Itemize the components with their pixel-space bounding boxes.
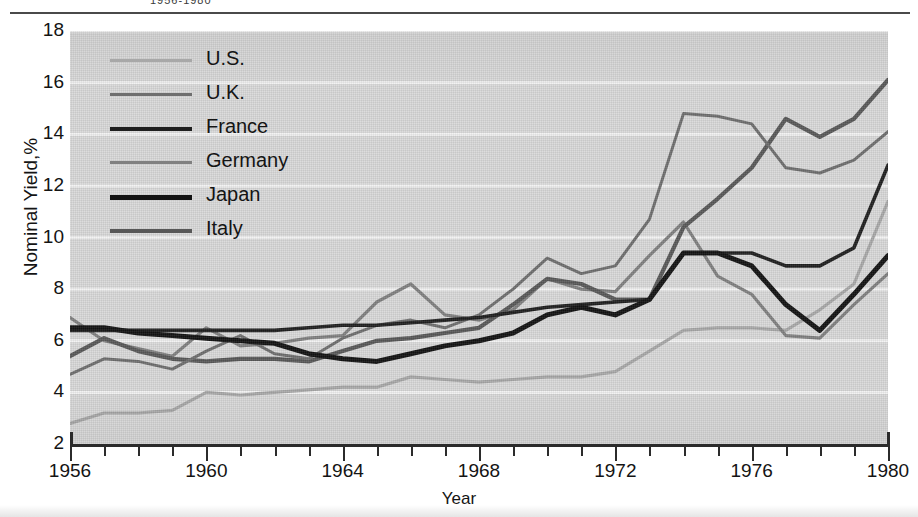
x-tick-label: 1980 — [853, 460, 918, 482]
legend-label: France — [206, 115, 268, 138]
x-tick-label: 1956 — [35, 460, 105, 482]
x-tick-minor — [172, 447, 174, 456]
x-tick-minor — [377, 447, 379, 456]
legend-swatch-icon — [110, 93, 192, 96]
x-tick-minor — [138, 447, 140, 456]
legend-label: Japan — [206, 183, 261, 206]
legend-label: Germany — [206, 149, 288, 172]
x-tick-major — [70, 447, 72, 461]
scan-edge-shadow — [0, 505, 918, 517]
x-tick-minor — [309, 447, 311, 456]
clipped-caption: 1956-1980 — [150, 0, 270, 6]
x-tick-label: 1964 — [308, 460, 378, 482]
legend-label: Italy — [206, 217, 243, 240]
x-tick-major — [479, 447, 481, 461]
x-tick-minor — [649, 447, 651, 456]
y-tick-label: 2 — [2, 432, 64, 454]
legend-swatch-icon — [110, 59, 192, 62]
x-axis-left-cap — [70, 432, 73, 445]
x-tick-label: 1976 — [717, 460, 787, 482]
x-tick-minor — [684, 447, 686, 456]
legend-swatch-icon — [110, 229, 192, 233]
x-tick-minor — [445, 447, 447, 456]
x-tick-minor — [581, 447, 583, 456]
y-tick-label: 18 — [2, 19, 64, 41]
legend-swatch-icon — [110, 161, 192, 164]
x-axis-right-cap — [887, 432, 890, 445]
x-tick-minor — [718, 447, 720, 456]
x-tick-major — [615, 447, 617, 461]
x-tick-minor — [547, 447, 549, 456]
top-rule — [10, 12, 910, 14]
y-axis-title: Nominal Yield,% — [20, 82, 42, 332]
x-tick-minor — [240, 447, 242, 456]
x-tick-label: 1960 — [171, 460, 241, 482]
y-tick-label: 4 — [2, 380, 64, 402]
x-tick-major — [752, 447, 754, 461]
plot-area — [70, 31, 888, 444]
series-line-japan — [70, 253, 888, 361]
x-tick-minor — [820, 447, 822, 456]
legend-label: U.S. — [206, 47, 245, 70]
legend-swatch-icon — [110, 127, 192, 131]
x-tick-label: 1968 — [444, 460, 514, 482]
series-lines — [70, 31, 888, 444]
y-tick-label: 6 — [2, 329, 64, 351]
x-tick-minor — [411, 447, 413, 456]
x-tick-minor — [786, 447, 788, 456]
x-tick-major — [343, 447, 345, 461]
x-tick-minor — [854, 447, 856, 456]
legend-label: U.K. — [206, 81, 245, 104]
legend-swatch-icon — [110, 195, 192, 200]
x-tick-minor — [513, 447, 515, 456]
x-tick-label: 1972 — [580, 460, 650, 482]
x-tick-minor — [104, 447, 106, 456]
x-tick-minor — [275, 447, 277, 456]
figure-root: 1956-1980 U.S.U.K.FranceGermanyJapanItal… — [0, 0, 918, 517]
x-tick-major — [888, 447, 890, 461]
series-line-france — [70, 165, 888, 330]
x-tick-major — [206, 447, 208, 461]
